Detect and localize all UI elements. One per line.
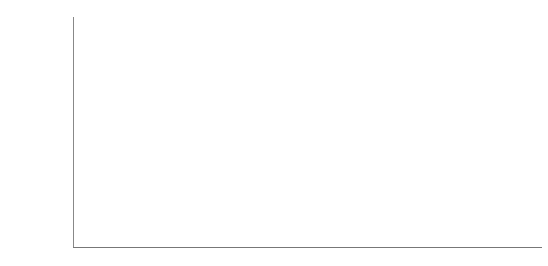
y-axis-line (73, 17, 74, 248)
x-axis-line (73, 247, 542, 248)
